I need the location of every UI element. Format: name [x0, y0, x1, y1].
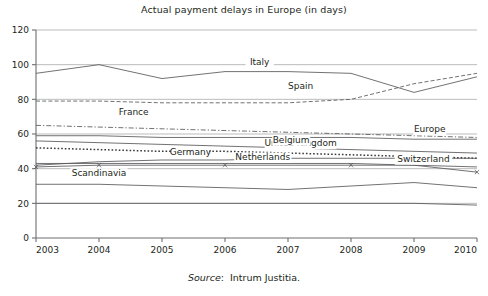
series-label-switzerland: Switzerland — [397, 154, 450, 164]
series-line-spain — [36, 73, 477, 102]
x-axis-tick-label: 2005 — [151, 245, 174, 255]
data-series-group — [34, 65, 479, 205]
x-axis-tick-label: 2010 — [454, 245, 477, 255]
y-axis-tick-label: 0 — [23, 233, 29, 243]
y-axis-tick-label: 20 — [18, 199, 30, 209]
x-axis-tick-label: 2003 — [36, 245, 59, 255]
chart-figure: Actual payment delays in Europe (in days… — [0, 0, 488, 296]
x-axis-tick-label: 2004 — [88, 245, 111, 255]
series-label-italy: Italy — [250, 57, 270, 67]
y-axis-tick-label: 60 — [18, 129, 30, 139]
y-axis-tick-label: 100 — [12, 60, 29, 70]
source-note: Source: Intrum Justitia. — [0, 272, 488, 283]
series-label-france: France — [119, 107, 149, 117]
y-axis-tick-labels: 020406080100120 — [12, 25, 29, 243]
series-labels-group: ItalySpainFranceEuropeUnited KingdomBelg… — [70, 57, 452, 179]
series-line-scandinavia — [36, 183, 477, 190]
y-axis-tick-label: 120 — [12, 25, 29, 35]
y-axis-tick-label: 40 — [18, 164, 30, 174]
series-label-belgium: Belgium — [273, 135, 310, 145]
series-line-europe — [36, 136, 477, 139]
source-separator: : — [221, 272, 224, 283]
series-label-netherlands: Netherlands — [235, 152, 290, 162]
series-line-italy — [36, 65, 477, 93]
source-prefix: Source — [188, 272, 221, 283]
series-label-scandinavia: Scandinavia — [72, 168, 127, 178]
x-axis-tick-label: 2006 — [214, 245, 237, 255]
x-axis-tick-labels: 20032004200520062007200820092010 — [36, 245, 477, 255]
source-text: Intrum Justitia. — [230, 272, 300, 283]
series-label-spain: Spain — [288, 81, 313, 91]
series-line-unlabeled-low-line — [36, 203, 477, 205]
y-axis-tick-label: 80 — [18, 95, 30, 105]
x-axis-tick-label: 2008 — [340, 245, 363, 255]
x-axis-tick-label: 2007 — [277, 245, 300, 255]
line-chart-plot: 020406080100120 200320042005200620072008… — [0, 0, 488, 296]
x-axis-tick-label: 2009 — [403, 245, 426, 255]
series-label-europe: Europe — [414, 124, 446, 134]
series-label-germany: Germany — [170, 147, 212, 157]
